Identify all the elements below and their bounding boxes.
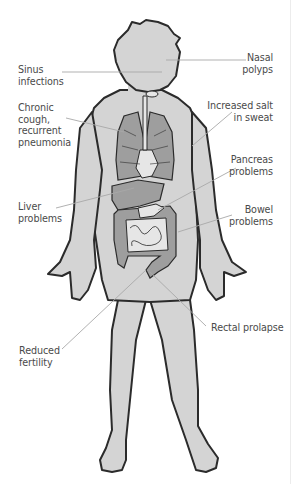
label-reduced-fertility: Reduced fertility (19, 345, 60, 368)
label-increased-salt: Increased salt in sweat (207, 100, 273, 123)
small-intestine (126, 218, 168, 252)
head (114, 20, 180, 92)
mouth-detail (146, 91, 158, 97)
label-sinus-infections: Sinus infections (18, 64, 64, 87)
label-liver-problems: Liver problems (18, 201, 62, 224)
left-leg (100, 300, 146, 472)
right-leg (150, 300, 218, 472)
label-rectal-prolapse: Rectal prolapse (211, 322, 284, 334)
label-chronic-cough: Chronic cough, recurrent pneumonia (18, 102, 71, 148)
label-bowel-problems: Bowel problems (229, 204, 273, 227)
trachea (143, 96, 147, 150)
label-pancreas-problems: Pancreas problems (229, 154, 273, 177)
label-nasal-polyps: Nasal polyps (242, 52, 273, 75)
